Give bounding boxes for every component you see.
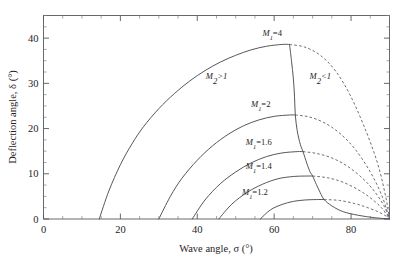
chart-canvas: 020406080 010203040 M1=4M1=2M1=1.6M1=1.4… — [0, 0, 407, 272]
mach-curve-label-3: M1=1.4 — [245, 161, 273, 174]
strong-shock-curve-1 — [295, 115, 389, 219]
y-axis-tick-labels: 010203040 — [28, 33, 39, 225]
strong-shock-curve-3 — [313, 176, 390, 219]
y-tick-label: 30 — [28, 78, 39, 89]
x-axis-title: Wave angle, σ (°) — [179, 243, 253, 255]
x-tick-label: 60 — [269, 224, 280, 235]
y-tick-label: 20 — [28, 123, 39, 134]
weak-shock-curve-3 — [219, 176, 313, 219]
strong-shock-curve-0 — [290, 44, 390, 219]
mach-curve-label-2: M1=1.6 — [245, 137, 273, 150]
sonic-line-curve — [290, 44, 390, 219]
strong-shock-solution-curves — [290, 44, 390, 219]
x-tick-label: 40 — [192, 224, 203, 235]
mach-curve-label-1: M1=2 — [250, 99, 270, 112]
x-axis-tick-labels: 020406080 — [41, 224, 356, 235]
mach-curve-labels: M1=4M1=2M1=1.6M1=1.4M1=1.2 — [241, 28, 283, 200]
x-axis-ticks — [44, 16, 390, 220]
x-tick-label: 80 — [346, 224, 357, 235]
y-axis-ticks — [44, 16, 390, 220]
weak-shock-curve-4 — [260, 200, 324, 219]
mach-curve-label-4: M1=1.2 — [241, 187, 268, 200]
region-m2-subsonic: M2<1 — [309, 71, 332, 86]
x-tick-label: 0 — [41, 224, 46, 235]
x-tick-label: 20 — [115, 224, 126, 235]
mach-curve-label-0: M1=4 — [262, 28, 283, 41]
y-axis-title: Deflection angle, δ (°) — [7, 70, 19, 164]
y-tick-label: 0 — [33, 214, 38, 225]
weak-shock-curve-1 — [159, 115, 295, 219]
sonic-line-m2-equals-1 — [290, 44, 390, 219]
y-tick-label: 10 — [28, 168, 39, 179]
y-tick-label: 40 — [28, 33, 39, 44]
strong-shock-curve-2 — [303, 152, 390, 219]
region-annotation-labels: M2>1M2<1 — [205, 71, 331, 86]
strong-shock-curve-4 — [324, 200, 389, 219]
plot-frame — [44, 16, 390, 220]
theta-beta-mach-chart-figure: 020406080 010203040 M1=4M1=2M1=1.6M1=1.4… — [0, 0, 407, 272]
region-m2-supersonic: M2>1 — [205, 71, 228, 86]
